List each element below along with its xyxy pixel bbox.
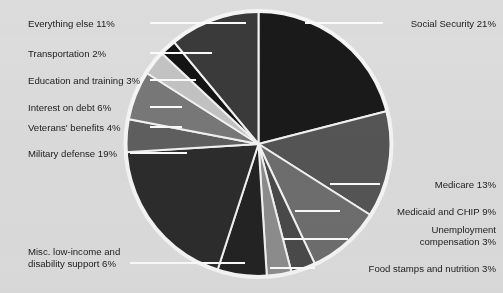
label-unemployment-line2: compensation 3% [420, 236, 497, 247]
label-unemployment-line1: Unemployment [431, 224, 496, 235]
label-medicare: Medicare 13% [435, 179, 497, 190]
label-military-defense: Military defense 19% [28, 148, 118, 159]
label-medicaid-and-chip: Medicaid and CHIP 9% [397, 206, 496, 217]
pie-chart-figure: Everything else 11% Transportation 2% Ed… [0, 0, 503, 293]
label-misc-low-income-line1: Misc. low-income and [28, 246, 120, 257]
label-everything-else: Everything else 11% [28, 18, 115, 29]
label-interest-on-debt: Interest on debt 6% [28, 102, 112, 113]
label-food-stamps: Food stamps and nutrition 3% [369, 263, 497, 274]
label-veterans-benefits: Veterans' benefits 4% [28, 122, 121, 133]
label-social-security: Social Security 21% [411, 18, 497, 29]
label-education-and-training: Education and training 3% [28, 75, 140, 86]
label-misc-low-income-line2: disability support 6% [28, 258, 116, 269]
federal-spending-pie-chart: Everything else 11% Transportation 2% Ed… [0, 0, 503, 293]
label-transportation: Transportation 2% [28, 48, 107, 59]
